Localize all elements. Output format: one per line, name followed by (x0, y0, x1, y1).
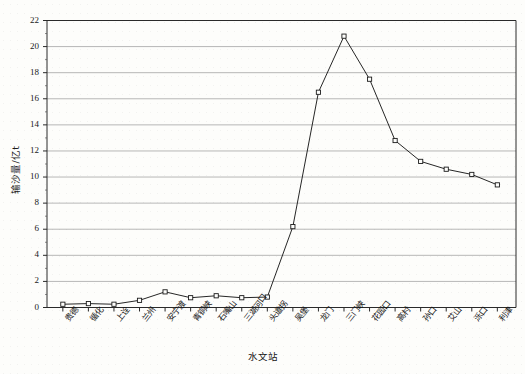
y-axis-tick-label: 18 (17, 67, 39, 77)
data-point-marker (444, 167, 448, 171)
y-axis-tick-label: 0 (17, 302, 39, 312)
data-point-marker (61, 302, 65, 306)
data-point-marker (214, 294, 218, 298)
data-point-marker (137, 298, 141, 302)
y-axis-tick-label: 14 (17, 119, 39, 129)
data-point-marker (86, 301, 90, 305)
data-point-marker (291, 225, 295, 229)
data-point-marker (419, 159, 423, 163)
y-axis-tick-label: 22 (17, 15, 39, 25)
y-axis-tick-label: 16 (17, 93, 39, 103)
chart-figure: 输沙量/亿t 水文站 0246810121416182022贵德循化上诠兰州安宁… (0, 0, 525, 374)
y-axis-tick-label: 12 (17, 145, 39, 155)
data-point-marker (189, 296, 193, 300)
data-point-marker (163, 290, 167, 294)
data-point-marker (112, 302, 116, 306)
data-point-marker (316, 90, 320, 94)
x-axis-title: 水文站 (0, 349, 525, 363)
y-axis-tick-label: 6 (17, 223, 39, 233)
y-axis-tick-label: 2 (17, 275, 39, 285)
data-point-marker (495, 183, 499, 187)
y-axis-tick-label: 10 (17, 171, 39, 181)
data-point-marker (240, 296, 244, 300)
data-point-marker (367, 77, 371, 81)
y-axis-tick-label: 4 (17, 249, 39, 259)
data-point-marker (470, 172, 474, 176)
y-axis-tick-label: 8 (17, 197, 39, 207)
data-point-marker (393, 138, 397, 142)
y-axis-tick-label: 20 (17, 41, 39, 51)
data-point-marker (342, 34, 346, 38)
